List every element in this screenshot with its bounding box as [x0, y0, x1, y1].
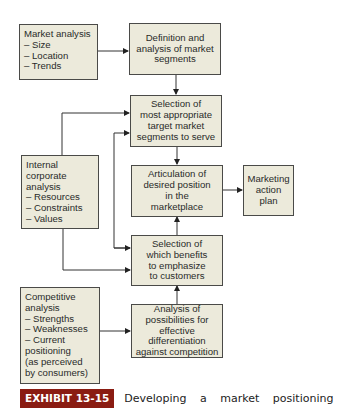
node-selection-benefits: Selection of which benefits to emphasize… — [131, 235, 223, 286]
node-competitive-analysis-text: Competitive analysis – Strengths – Weakn… — [25, 291, 88, 378]
node-definition-text: Definition and analysis of market segmen… — [136, 33, 213, 65]
node-differentiation-text: Analysis of possibilities for effective … — [136, 304, 219, 358]
arrow-internal-to-benefits — [63, 228, 130, 270]
exhibit-badge: EXHIBIT 13-15 — [20, 389, 114, 408]
node-articulation: Articulation of desired position in the … — [131, 165, 223, 217]
node-marketing-plan-text: Marketing action plan — [247, 174, 289, 206]
node-competitive-analysis: Competitive analysis – Strengths – Weakn… — [20, 287, 100, 384]
node-definition: Definition and analysis of market segmen… — [129, 23, 221, 75]
caption-text: Developing a market positioning — [124, 392, 333, 405]
node-selection-target-text: Selection of most appropriate target mar… — [137, 99, 215, 142]
node-articulation-text: Articulation of desired position in the … — [143, 169, 210, 212]
node-selection-benefits-text: Selection of which benefits to emphasize… — [147, 239, 208, 282]
node-market-analysis: Market analysis – Size – Location – Tren… — [19, 24, 98, 80]
arrow-benefits-loop-to-selection-target — [114, 133, 130, 248]
node-differentiation: Analysis of possibilities for effective … — [131, 304, 223, 358]
exhibit-caption: EXHIBIT 13-15 Developing a market positi… — [20, 389, 333, 408]
node-internal-analysis: Internal corporate analysis – Resources … — [21, 155, 99, 229]
node-marketing-plan: Marketing action plan — [243, 165, 294, 216]
node-market-analysis-text: Market analysis – Size – Location – Tren… — [24, 28, 91, 71]
node-selection-target: Selection of most appropriate target mar… — [130, 95, 222, 147]
arrow-internal-to-selection-target — [62, 113, 129, 155]
node-internal-analysis-text: Internal corporate analysis – Resources … — [26, 159, 83, 224]
